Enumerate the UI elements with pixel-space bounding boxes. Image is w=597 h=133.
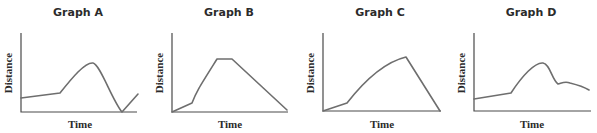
graph-d-title: Graph D (506, 6, 557, 19)
graph-d-xlabel: Time (520, 118, 544, 130)
graph-c-curve (323, 57, 440, 111)
graph-c-axes (323, 33, 441, 111)
graph-b-curve (172, 59, 287, 112)
graph-b-title: Graph B (204, 6, 254, 19)
graph-c-xlabel: Time (370, 118, 394, 130)
graph-a: Graph A Distance Time (2, 6, 138, 130)
graph-d-ylabel: Distance (455, 53, 467, 93)
graph-a-xlabel: Time (68, 118, 92, 130)
graph-b-ylabel: Distance (153, 53, 165, 93)
graph-a-ylabel: Distance (2, 53, 14, 93)
graph-d-axes (474, 33, 591, 111)
distance-time-graphs: Graph A Distance Time Graph B Distance T… (0, 0, 597, 133)
graph-d: Graph D Distance Time (455, 6, 591, 130)
graph-c-title: Graph C (355, 6, 404, 19)
graph-a-curve (21, 63, 138, 112)
graph-c: Graph C Distance Time (304, 6, 441, 130)
graph-b-axes (172, 33, 288, 112)
graph-b: Graph B Distance Time (153, 6, 288, 130)
graph-a-title: Graph A (53, 6, 103, 19)
graph-a-axes (21, 33, 137, 112)
graph-b-xlabel: Time (218, 118, 242, 130)
graph-c-ylabel: Distance (304, 53, 316, 93)
graph-d-curve (474, 63, 589, 99)
